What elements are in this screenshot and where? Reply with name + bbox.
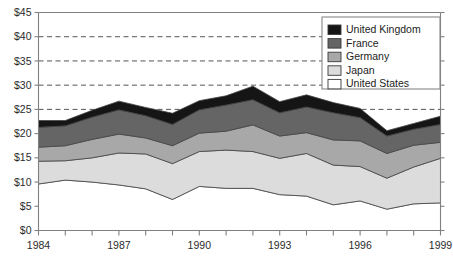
x-tick-label: 1999 bbox=[429, 239, 453, 251]
x-tick-label: 1990 bbox=[188, 239, 212, 251]
x-tick-label: 1996 bbox=[348, 239, 372, 251]
legend-label: United States bbox=[346, 77, 409, 89]
x-tick-label: 1987 bbox=[107, 239, 131, 251]
y-tick-label: $30 bbox=[14, 79, 32, 91]
y-tick-label: $5 bbox=[20, 200, 32, 212]
y-tick-label: $0 bbox=[20, 224, 32, 236]
chart-canvas: $0$5$10$15$20$25$30$35$40$45198419871990… bbox=[0, 0, 453, 269]
y-tick-label: $45 bbox=[14, 6, 32, 18]
legend-swatch bbox=[328, 25, 341, 35]
x-tick-label: 1984 bbox=[27, 239, 51, 251]
y-tick-label: $35 bbox=[14, 55, 32, 67]
legend-label: France bbox=[346, 37, 379, 49]
legend-swatch bbox=[328, 79, 341, 89]
y-tick-label: $25 bbox=[14, 103, 32, 115]
legend-item: France bbox=[328, 37, 379, 49]
stacked-area-chart: $0$5$10$15$20$25$30$35$40$45198419871990… bbox=[0, 0, 453, 269]
legend-swatch bbox=[328, 52, 341, 62]
legend-swatch bbox=[328, 66, 341, 76]
legend-label: Germany bbox=[346, 50, 390, 62]
x-tick-label: 1993 bbox=[268, 239, 292, 251]
legend-swatch bbox=[328, 39, 341, 49]
legend-label: United Kingdom bbox=[346, 23, 421, 35]
y-tick-label: $10 bbox=[14, 176, 32, 188]
legend-item: United States bbox=[328, 77, 409, 89]
legend-item: Japan bbox=[328, 64, 375, 76]
y-tick-label: $15 bbox=[14, 151, 32, 163]
y-tick-label: $20 bbox=[14, 127, 32, 139]
legend-item: Germany bbox=[328, 50, 390, 62]
legend: United KingdomFranceGermanyJapanUnited S… bbox=[322, 17, 440, 89]
series-areas bbox=[39, 86, 441, 230]
legend-label: Japan bbox=[346, 64, 375, 76]
y-tick-label: $40 bbox=[14, 30, 32, 42]
x-axis: 198419871990199319961999 bbox=[27, 231, 453, 251]
